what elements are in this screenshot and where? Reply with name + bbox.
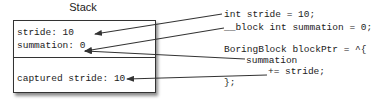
arrow-summation-usage xyxy=(85,51,245,59)
arrow-block-summation xyxy=(85,28,224,51)
arrow-captured-stride xyxy=(127,75,267,79)
arrows-layer xyxy=(0,0,380,105)
